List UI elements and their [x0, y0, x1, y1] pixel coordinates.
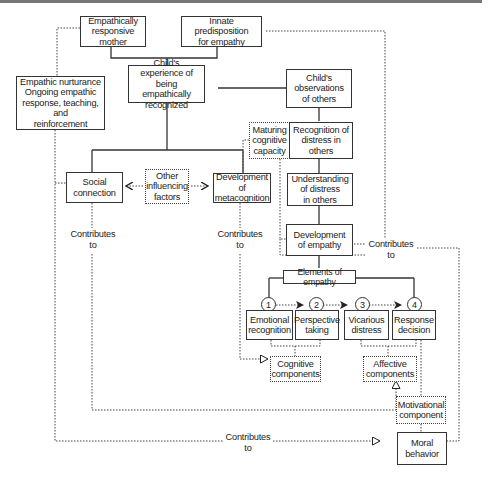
node-elements-of-empathy: Elements of empathy [283, 270, 356, 284]
node-development-of-metacognition: Development of metacognition [213, 173, 271, 203]
node-childs-observations: Child's observations of others [286, 69, 352, 108]
node-empathically-responsive-mother: Empathically responsive mother [80, 16, 146, 47]
node-innate-predisposition: Innate predisposition for empathy [181, 16, 262, 47]
node-affective-components: Affective components [363, 356, 417, 382]
node-response-decision: Response decision [392, 310, 436, 340]
node-cognitive-components: Cognitive components [270, 356, 321, 382]
edge-label-nurturance-contributes: Contributes to [224, 432, 272, 453]
edge-label-social-contributes: Contributes to [68, 229, 118, 250]
edge-label-empathy-contributes: Contributes to [366, 239, 416, 260]
node-childs-experience: Child's experience of being empathically… [128, 65, 205, 103]
node-vicarious-distress: Vicarious distress [344, 310, 389, 340]
node-emotional-recognition: Emotional recognition [246, 310, 293, 340]
node-perspective-taking: Perspective taking [295, 310, 339, 340]
node-recognition-of-distress: Recognition of distress in others [289, 122, 353, 159]
node-other-influencing-factors: Other influencing factors [145, 169, 189, 204]
node-maturing-cognitive-capacity: Maturing cognitive capacity [249, 122, 290, 159]
node-social-connection: Social connection [66, 172, 123, 203]
node-development-of-empathy: Development of empathy [286, 224, 353, 256]
node-moral-behavior: Moral behavior [397, 432, 447, 465]
edge-label-metacognition-contributes: Contributes to [215, 229, 265, 250]
node-understanding-of-distress: Understanding of distress in others [287, 173, 353, 206]
node-empathic-nurturance: Empathic nurturance Ongoing empathic res… [16, 76, 105, 130]
node-motivational-component: Motivational component [396, 396, 446, 424]
